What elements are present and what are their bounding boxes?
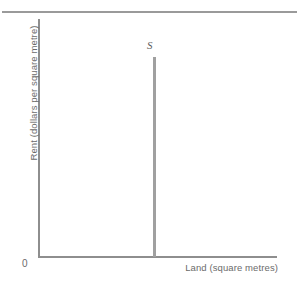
y-axis-title: Rent (dollars per square metre): [27, 13, 41, 173]
x-axis-line: [38, 256, 277, 258]
top-divider-rule: [2, 11, 297, 13]
supply-curve-label: S: [147, 40, 153, 51]
origin-label: 0: [22, 259, 28, 269]
x-axis-title: Land (square metres): [150, 262, 278, 274]
supply-of-land-chart: S 0 Rent (dollars per square metre) Land…: [0, 0, 299, 286]
supply-curve-line: [153, 57, 156, 257]
